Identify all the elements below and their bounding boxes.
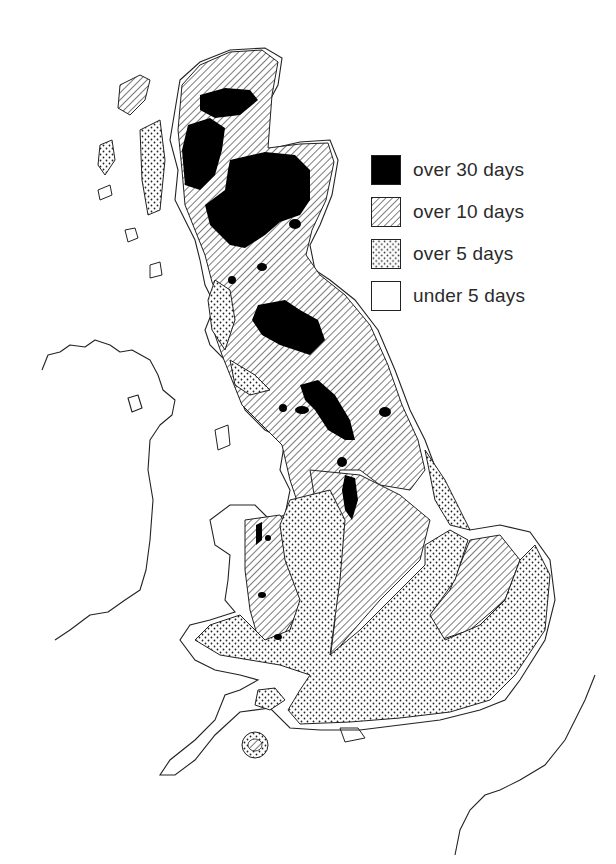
- hebrides: [118, 75, 150, 115]
- legend-label: over 30 days: [413, 159, 524, 181]
- legend-label: over 10 days: [413, 201, 524, 223]
- legend-item-over-5-days: over 5 days: [371, 233, 525, 275]
- legend-item-over-10-days: over 10 days: [371, 191, 525, 233]
- legend-label: under 5 days: [413, 285, 525, 307]
- diagonal-hatch-swatch-icon: [371, 197, 401, 227]
- blank-swatch-icon: [371, 281, 401, 311]
- solid-black-swatch-icon: [371, 155, 401, 185]
- legend-item-over-30-days: over 30 days: [371, 149, 525, 191]
- dotted-swatch-icon: [371, 239, 401, 269]
- snow-days-map: [0, 0, 616, 864]
- legend-label: over 5 days: [413, 243, 513, 265]
- legend: over 30 days over 10 days over 5 days un…: [371, 149, 525, 317]
- legend-item-under-5-days: under 5 days: [371, 275, 525, 317]
- ireland-coast: [42, 340, 175, 640]
